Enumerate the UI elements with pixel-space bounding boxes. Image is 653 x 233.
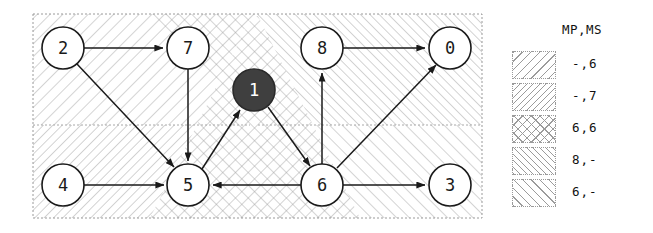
node-1[interactable]: 1 <box>233 69 275 111</box>
node-4[interactable]: 4 <box>42 164 84 206</box>
legend-swatch-0 <box>512 51 556 79</box>
node-5-label: 5 <box>183 175 193 195</box>
graph-canvas: 2 7 8 0 1 <box>0 0 500 233</box>
legend-label-4: 6,- <box>572 184 598 199</box>
node-8[interactable]: 8 <box>301 27 343 69</box>
figure-root: 2 7 8 0 1 <box>0 0 653 233</box>
node-6-label: 6 <box>317 175 327 195</box>
node-2-label: 2 <box>58 38 68 58</box>
legend-row-3[interactable]: 8,- <box>500 147 653 178</box>
node-7[interactable]: 7 <box>167 27 209 69</box>
legend-title: MP,MS <box>562 22 602 37</box>
node-4-label: 4 <box>58 175 68 195</box>
legend-label-1: -,7 <box>572 88 598 103</box>
node-7-label: 7 <box>183 38 193 58</box>
legend-label-2: 6,6 <box>572 120 598 135</box>
legend-label-3: 8,- <box>572 152 598 167</box>
node-8-label: 8 <box>317 38 327 58</box>
legend-row-4[interactable]: 6,- <box>500 179 653 210</box>
node-6[interactable]: 6 <box>301 164 343 206</box>
legend-row-1[interactable]: -,7 <box>500 83 653 114</box>
graph-panel: 2 7 8 0 1 <box>0 0 500 233</box>
legend-row-2[interactable]: 6,6 <box>500 115 653 146</box>
legend-swatch-3 <box>512 147 556 175</box>
node-1-label: 1 <box>249 80 259 100</box>
region-shading-group <box>33 14 482 218</box>
legend-label-0: -,6 <box>572 56 598 71</box>
node-0[interactable]: 0 <box>429 27 471 69</box>
legend-swatch-4 <box>512 179 556 207</box>
legend-swatch-2 <box>512 115 556 143</box>
legend-swatch-1 <box>512 83 556 111</box>
node-3-label: 3 <box>445 175 455 195</box>
legend-panel: MP,MS -,6 -,7 6,6 8,- 6,- <box>500 0 653 233</box>
node-5[interactable]: 5 <box>167 164 209 206</box>
node-3[interactable]: 3 <box>429 164 471 206</box>
node-2[interactable]: 2 <box>42 27 84 69</box>
legend-row-0[interactable]: -,6 <box>500 51 653 82</box>
node-0-label: 0 <box>445 38 455 58</box>
